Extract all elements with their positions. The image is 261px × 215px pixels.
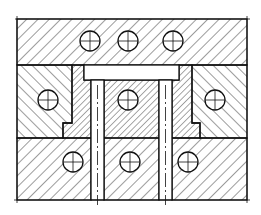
cross-section-drawing [0, 0, 261, 215]
hole-bot-2 [120, 152, 140, 172]
cap-bar [84, 65, 179, 80]
hole-mid-2 [118, 90, 138, 110]
hole-top-3 [163, 31, 183, 51]
hole-top-2 [118, 31, 138, 51]
hole-bot-1 [63, 152, 83, 172]
hole-top-1 [80, 31, 100, 51]
hole-bot-3 [178, 152, 198, 172]
hole-mid-1 [38, 90, 58, 110]
hole-mid-3 [205, 90, 225, 110]
